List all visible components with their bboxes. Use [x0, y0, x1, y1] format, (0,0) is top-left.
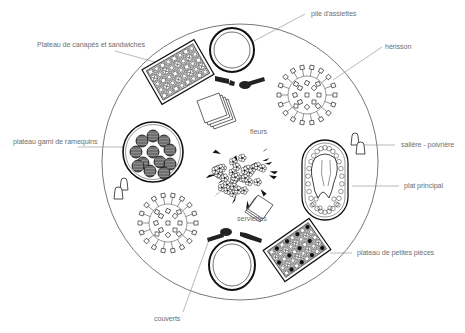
- napkins-icon: [197, 93, 236, 129]
- label-main-dish: plat principal: [404, 181, 443, 190]
- label-napkins: serviettes: [237, 214, 267, 223]
- buffet-diagram: pile d'assiettes Plateau de canapés et s…: [0, 0, 465, 333]
- small-bites-tray-icon: [263, 218, 331, 281]
- flowers-icon: [206, 148, 278, 210]
- salt-pepper-icon: [114, 178, 128, 199]
- canapes-tray-icon: [142, 40, 214, 105]
- salt-pepper-icon: [351, 133, 365, 154]
- cutlery-icon: [215, 76, 265, 89]
- label-salt-pepper: salière - poivrière: [401, 140, 454, 149]
- label-flowers: fleurs: [250, 127, 267, 136]
- main-dish-icon: [302, 140, 348, 220]
- label-canapes-tray: Plateau de canapés et sandwiches: [37, 40, 145, 49]
- label-cutlery: couverts: [154, 314, 180, 323]
- label-plates-stack: pile d'assiettes: [311, 9, 356, 18]
- plates-stack-icon: [209, 240, 255, 290]
- hedgehog-icon: [138, 193, 198, 253]
- label-ramekin-tray: plateau garni de ramequins: [13, 137, 98, 146]
- ramekin-tray-icon: [123, 122, 183, 182]
- label-small-bites-tray: plateau de petites pièces: [357, 248, 434, 257]
- hedgehog-icon: [277, 65, 337, 125]
- label-hedgehog: hérisson: [385, 42, 411, 51]
- plates-stack-icon: [210, 28, 254, 72]
